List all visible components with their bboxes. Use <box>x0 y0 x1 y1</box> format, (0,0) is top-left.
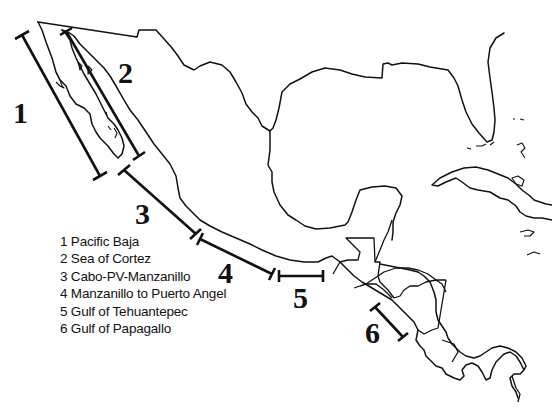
legend-item-5: 5 Gulf of Tehuantepec <box>60 303 226 320</box>
segment-bar-1 <box>15 31 107 180</box>
segment-label-6: 6 <box>365 318 380 348</box>
legend-item-2: 2 Sea of Cortez <box>60 250 226 267</box>
belize-border <box>375 220 392 262</box>
segment-label-1: 1 <box>13 98 28 128</box>
baja-california <box>38 22 124 158</box>
map-legend: 1 Pacific Baja 2 Sea of Cortez 3 Cabo-PV… <box>60 233 226 337</box>
costa-rica-border <box>442 340 458 362</box>
legend-item-3: 3 Cabo-PV-Manzanillo <box>60 268 226 285</box>
legend-item-1: 1 Pacific Baja <box>60 233 226 250</box>
segment-label-3: 3 <box>135 199 150 229</box>
jamaica <box>520 230 534 236</box>
segment-bar-3 <box>118 165 201 239</box>
bahamas-islands <box>513 119 525 158</box>
central-america-coast <box>380 264 526 398</box>
segment-label-2: 2 <box>118 58 133 88</box>
florida-keys <box>467 142 494 149</box>
map-canvas <box>0 0 552 418</box>
guatemala-border <box>333 238 380 288</box>
us-mexico-border-and-gulf-coast <box>38 22 504 142</box>
legend-item-4: 4 Manzanillo to Puerto Angel <box>60 285 226 302</box>
segment-label-5: 5 <box>293 283 308 313</box>
mexico-gulf-coast <box>268 131 402 240</box>
legend-item-6: 6 Gulf of Papagallo <box>60 320 226 337</box>
baja-west-bulge <box>56 72 64 88</box>
cuba-island-east <box>512 176 524 186</box>
cuba <box>432 167 552 220</box>
caribbean-island-fragment <box>527 252 540 255</box>
